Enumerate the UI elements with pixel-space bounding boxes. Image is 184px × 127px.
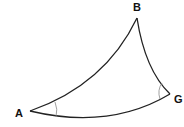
curved-triangle-diagram: A B G xyxy=(0,0,184,127)
label-a: A xyxy=(15,107,23,119)
edge-g-a xyxy=(30,94,170,118)
label-b: B xyxy=(133,1,141,13)
edge-b-g xyxy=(137,18,170,94)
edge-a-b xyxy=(30,18,137,111)
angle-mark-a xyxy=(55,102,57,117)
label-g: G xyxy=(174,93,183,105)
